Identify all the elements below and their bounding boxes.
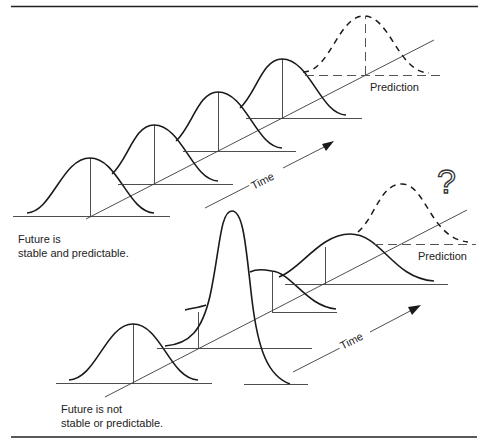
bottom-curveD: [279, 234, 434, 281]
question-mark-icon: ?: [437, 164, 456, 198]
bottom-time-arrow-shaft: [370, 310, 412, 332]
top-time-arrow-shaft: [283, 146, 326, 168]
top-panel-diagram: [13, 16, 440, 219]
top-prediction-label: Prediction: [370, 80, 419, 95]
bottom-panel-diagram: [56, 184, 476, 397]
bottom-curveC: [250, 270, 336, 309]
bottom-time-axis: [105, 210, 467, 397]
top-caption-line1: Future is: [18, 232, 61, 247]
top-time-arrow-tail: [205, 185, 250, 208]
top-curve2: [112, 125, 218, 181]
bottom-prediction-label: Prediction: [418, 249, 467, 264]
bottom-time-arrowhead-icon: [408, 305, 421, 315]
bottom-time-arrow-tail: [293, 348, 340, 372]
top-curve4: [240, 59, 346, 115]
bottom-curveB-tail: [185, 305, 206, 310]
top-time-axis: [86, 40, 434, 219]
bottom-curveB: [165, 211, 290, 384]
bottom-caption-line2: stable or predictable.: [61, 416, 163, 431]
top-time-arrowhead-icon: [322, 141, 334, 151]
diagram-canvas: [0, 0, 488, 442]
bottom-caption-line1: Future is not: [61, 402, 122, 417]
top-caption-line2: stable and predictable.: [18, 246, 129, 261]
top-curve3: [176, 92, 282, 148]
